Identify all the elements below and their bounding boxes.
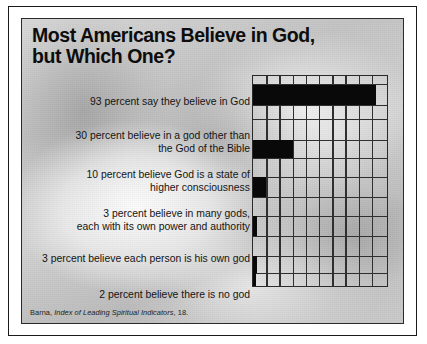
category-label: 3 percent believe each person is his own… <box>28 253 250 266</box>
bar-3-percent-many-gods <box>253 216 257 236</box>
title-line-1: Most Americans Believe in God, <box>32 25 322 46</box>
gridline-vertical <box>279 76 280 286</box>
category-label: 30 percent believe in a god other than t… <box>28 130 250 155</box>
gridline-vertical <box>332 76 333 286</box>
gridline-vertical <box>266 76 267 286</box>
gridline-horizontal <box>253 197 387 198</box>
source-author: Barna, <box>30 308 52 317</box>
gridline-vertical <box>306 76 307 286</box>
bar-10-percent <box>253 177 266 197</box>
gridline-vertical <box>345 76 346 286</box>
infographic-page: Most Americans Believe in God, but Which… <box>0 0 427 344</box>
gridline-vertical <box>319 76 320 286</box>
category-label: 93 percent say they believe in God <box>28 96 250 109</box>
gridline-horizontal <box>253 216 387 217</box>
source-page: , 18. <box>174 308 189 317</box>
bar-3-percent-own-god <box>253 256 257 273</box>
page-title: Most Americans Believe in God, but Which… <box>32 25 322 67</box>
bar-93-percent <box>253 85 376 105</box>
gridline-vertical <box>359 76 360 286</box>
gridline-horizontal <box>253 273 387 274</box>
category-label: 10 percent believe God is a state of hig… <box>28 169 250 194</box>
category-label: 3 percent believe in many gods, each wit… <box>28 208 250 233</box>
gridline-horizontal <box>253 119 387 120</box>
category-label: 2 percent believe there is no god <box>28 289 250 302</box>
gridline-horizontal <box>253 256 387 257</box>
title-line-2: but Which One? <box>32 46 322 67</box>
gridline-vertical <box>293 76 294 286</box>
bar-2-percent-no-god <box>253 273 256 286</box>
bar-chart <box>252 75 388 287</box>
bar-30-percent <box>253 140 293 158</box>
gridline-horizontal <box>253 158 387 159</box>
gridline-horizontal <box>253 236 387 237</box>
source-work: Index of Leading Spiritual Indicators <box>54 308 173 317</box>
source-citation: Barna, Index of Leading Spiritual Indica… <box>30 308 188 317</box>
gridline-horizontal <box>253 105 387 106</box>
gridline-horizontal <box>253 177 387 178</box>
inner-panel: Most Americans Believe in God, but Which… <box>21 18 404 324</box>
gridline-vertical <box>372 76 373 286</box>
